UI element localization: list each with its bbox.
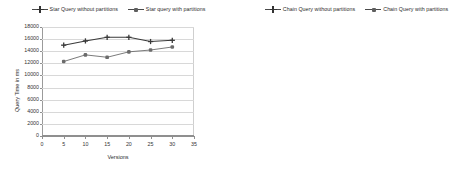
x-tick-mark bbox=[151, 136, 152, 139]
data-point-marker bbox=[84, 53, 88, 57]
data-point-marker bbox=[126, 35, 131, 40]
y-axis-title: Query Time in ms bbox=[14, 69, 20, 112]
series-line-0 bbox=[64, 37, 173, 45]
y-tick-label: 4000 bbox=[27, 109, 39, 114]
x-axis-title: Versions bbox=[42, 154, 194, 160]
legend-star-query: Star Query without partitions Star query… bbox=[0, 6, 237, 13]
legend-label-0: Star Query without partitions bbox=[50, 6, 118, 13]
x-tick-mark bbox=[64, 136, 65, 139]
x-tick-label: 0 bbox=[41, 141, 44, 147]
plot-area-star-query: 0200040006000800010000120001400016000180… bbox=[42, 27, 194, 136]
data-point-marker bbox=[170, 45, 174, 49]
series-lines bbox=[42, 27, 194, 136]
x-tick-label: 25 bbox=[148, 141, 154, 147]
y-tick-label: 8000 bbox=[27, 85, 39, 90]
x-tick-label: 20 bbox=[126, 141, 132, 147]
y-tick-label: 0 bbox=[36, 133, 39, 138]
square-marker-icon bbox=[128, 6, 144, 13]
x-tick-mark bbox=[85, 136, 86, 139]
figure-two-line-charts: Star Query without partitions Star query… bbox=[0, 0, 475, 174]
data-point-marker bbox=[127, 50, 131, 54]
data-point-marker bbox=[148, 39, 153, 44]
data-point-marker bbox=[105, 35, 110, 40]
data-point-marker bbox=[149, 48, 153, 52]
legend-chain-query: Chain Query without partitions Chain Que… bbox=[238, 6, 475, 13]
x-tick-mark bbox=[172, 136, 173, 139]
chart-panel-star-query: Star Query without partitions Star query… bbox=[0, 0, 237, 174]
y-tick-label: 16000 bbox=[24, 36, 39, 41]
square-marker-icon bbox=[365, 6, 381, 13]
data-point-marker bbox=[61, 43, 66, 48]
data-point-marker bbox=[105, 55, 109, 59]
y-tick-label: 10000 bbox=[24, 73, 39, 78]
legend-item-1: Star query with partitions bbox=[128, 6, 206, 13]
y-tick-label: 6000 bbox=[27, 97, 39, 102]
series-line-1 bbox=[64, 47, 173, 62]
data-point-marker bbox=[62, 60, 66, 64]
data-point-marker bbox=[170, 38, 175, 43]
y-tick-label: 12000 bbox=[24, 61, 39, 66]
legend-label-1: Chain Query with partitions bbox=[383, 6, 448, 13]
y-tick-label: 14000 bbox=[24, 49, 39, 54]
legend-label-1: Star query with partitions bbox=[146, 6, 206, 13]
x-tick-label: 10 bbox=[82, 141, 88, 147]
x-tick-mark bbox=[42, 136, 43, 139]
x-tick-mark bbox=[107, 136, 108, 139]
x-tick-mark bbox=[194, 136, 195, 139]
y-tick-label: 18000 bbox=[24, 24, 39, 29]
legend-label-0: Chain Query without partitions bbox=[283, 6, 355, 13]
chart-panel-chain-query: Chain Query without partitions Chain Que… bbox=[238, 0, 475, 174]
x-tick-label: 15 bbox=[104, 141, 110, 147]
x-tick-label: 35 bbox=[191, 141, 197, 147]
legend-item-0: Star Query without partitions bbox=[32, 6, 118, 13]
data-point-marker bbox=[83, 38, 88, 43]
legend-item-0: Chain Query without partitions bbox=[265, 6, 355, 13]
star-marker-icon bbox=[265, 6, 281, 13]
y-tick-label: 2000 bbox=[27, 121, 39, 126]
legend-item-1: Chain Query with partitions bbox=[365, 6, 448, 13]
star-marker-icon bbox=[32, 6, 48, 13]
x-tick-label: 5 bbox=[62, 141, 65, 147]
x-tick-label: 30 bbox=[169, 141, 175, 147]
x-tick-mark bbox=[129, 136, 130, 139]
